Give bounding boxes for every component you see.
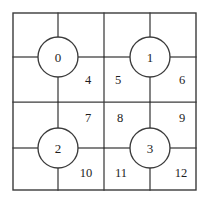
diagram-canvas: 0123 456789101112	[0, 0, 207, 204]
region-label-7: 7	[85, 111, 91, 125]
node-label-1: 1	[147, 50, 154, 65]
region-label-5: 5	[115, 73, 121, 87]
region-label-layer: 456789101112	[80, 73, 188, 180]
region-label-4: 4	[85, 73, 92, 87]
region-label-6: 6	[179, 73, 185, 87]
region-label-9: 9	[179, 111, 185, 125]
node-label-3: 3	[147, 141, 154, 156]
node-label-0: 0	[55, 50, 62, 65]
region-label-10: 10	[80, 166, 93, 180]
region-label-12: 12	[175, 166, 188, 180]
region-label-11: 11	[115, 166, 127, 180]
region-label-8: 8	[117, 111, 123, 125]
quadtree-diagram: 0123 456789101112	[0, 0, 207, 204]
node-label-2: 2	[55, 141, 62, 156]
divider-layer	[13, 13, 196, 190]
